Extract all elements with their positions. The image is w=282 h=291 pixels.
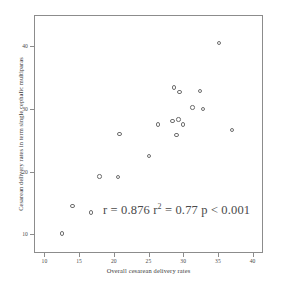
data-point (217, 41, 221, 45)
data-point (97, 174, 101, 178)
data-point (116, 175, 120, 179)
data-point (177, 90, 181, 94)
r-squared-value: = 0.77 (162, 203, 198, 217)
data-point (70, 204, 74, 208)
data-point (147, 154, 151, 158)
x-axis-tick-mark (218, 253, 219, 257)
x-axis-tick-mark (114, 253, 115, 257)
data-point (117, 132, 121, 136)
data-point (156, 122, 160, 126)
x-axis-tick-mark (79, 253, 80, 257)
y-axis-tick-mark (30, 46, 34, 47)
y-axis-tick-mark (30, 234, 34, 235)
y-axis-tick-mark (30, 172, 34, 173)
y-axis-title: Cesarean delivery rates in term single c… (14, 15, 28, 253)
data-point (60, 231, 64, 235)
correlation-statistics-annotation: r = 0.876 r2 = 0.77 p < 0.001 (103, 204, 250, 217)
data-point (190, 105, 194, 109)
x-axis-tick-mark (149, 253, 150, 257)
data-point (181, 122, 185, 126)
data-point (170, 119, 174, 123)
y-axis-tick-mark (30, 109, 34, 110)
x-axis-tick-mark (44, 253, 45, 257)
data-point (198, 89, 202, 93)
x-axis-tick-label: 40 (250, 258, 256, 264)
scatter-plot-figure: r = 0.876 r2 = 0.77 p < 0.001 1015202530… (0, 0, 282, 291)
x-axis-tick-label: 15 (76, 258, 82, 264)
x-axis-tick-label: 25 (146, 258, 152, 264)
data-point (172, 85, 176, 89)
p-value: p < 0.001 (201, 203, 250, 217)
pearson-r-value: r = 0.876 (103, 203, 150, 217)
plot-frame (34, 15, 263, 253)
data-point (176, 117, 180, 121)
x-axis-tick-label: 35 (215, 258, 221, 264)
data-point (201, 107, 205, 111)
x-axis-tick-label: 20 (111, 258, 117, 264)
data-point (174, 133, 178, 137)
data-point (230, 128, 234, 132)
x-axis-tick-mark (253, 253, 254, 257)
x-axis-tick-label: 30 (180, 258, 186, 264)
x-axis-title: Overall cesarean delivery rates (34, 267, 263, 274)
x-axis-tick-label: 10 (42, 258, 48, 264)
data-point (89, 210, 93, 214)
x-axis-tick-mark (183, 253, 184, 257)
